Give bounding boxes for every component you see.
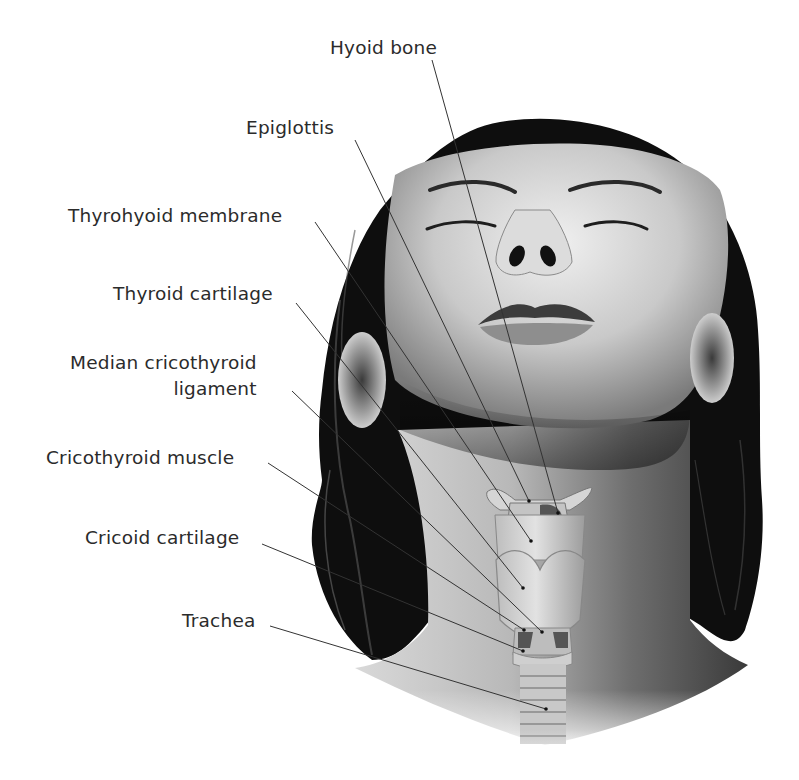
label-trachea: Trachea [182, 612, 256, 631]
leader-dot-thyroid-cartilage [521, 586, 525, 590]
larynx-anatomy-diagram: Hyoid bone Epiglottis Thyrohyoid membran… [0, 0, 799, 780]
label-median-cricothyroid-ligament: Median cricothyroid ligament [70, 354, 257, 398]
label-hyoid-bone: Hyoid bone [330, 39, 437, 58]
leader-dot-median-cricothyroid-ligament [540, 630, 544, 634]
leader-dot-hyoid-bone [556, 511, 560, 515]
leader-dot-thyrohyoid-membrane [529, 539, 533, 543]
right-ear [690, 313, 734, 403]
label-cricothyroid-muscle: Cricothyroid muscle [46, 449, 234, 468]
leader-dot-epiglottis [527, 499, 531, 503]
label-thyroid-cartilage: Thyroid cartilage [113, 285, 273, 304]
label-epiglottis: Epiglottis [246, 119, 334, 138]
left-ear [338, 332, 386, 428]
label-cricoid-cartilage: Cricoid cartilage [85, 529, 239, 548]
leader-dot-trachea [544, 707, 548, 711]
leader-dot-cricoid-cartilage [521, 649, 525, 653]
label-thyrohyoid-membrane: Thyrohyoid membrane [68, 207, 282, 226]
leader-dot-cricothyroid-muscle [522, 628, 526, 632]
